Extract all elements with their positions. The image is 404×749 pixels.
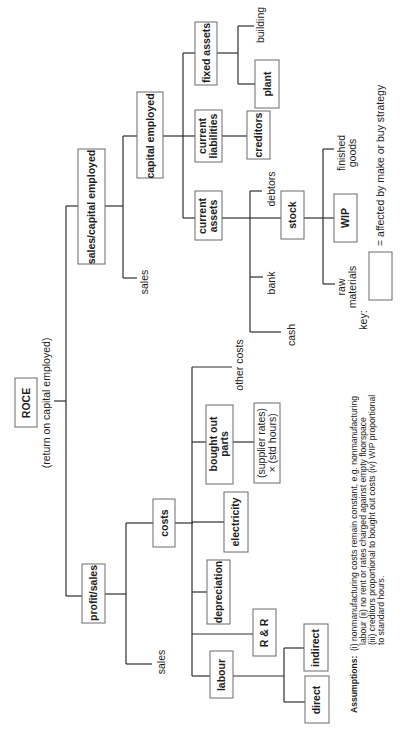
roce-tree-diagram: ROCE (return on capital employed) sales/…: [0, 0, 404, 749]
creditors-label: creditors: [252, 112, 264, 157]
bank-label: bank: [265, 271, 277, 295]
key-description: = affected by make or buy strategy: [374, 84, 386, 246]
capital-employed-label: capital employed: [144, 93, 156, 178]
electricity-label: electricity: [229, 497, 241, 546]
current-assets-label-2: assets: [207, 199, 219, 232]
costs-label: costs: [158, 509, 170, 537]
r-and-r-label: R & R: [258, 618, 270, 647]
building-label: building: [254, 7, 266, 43]
other-costs-label: other costs: [233, 339, 245, 390]
plant-label: plant: [261, 71, 273, 97]
profit-sales-label: profit/sales: [87, 565, 99, 621]
key-label: key:: [357, 310, 369, 329]
assumptions-title: Assumptions:: [349, 656, 359, 713]
sales-top-label: sales: [138, 270, 150, 295]
current-liabilities-label-2: liabilities: [207, 113, 219, 158]
supplier-rates-label-2: × (std hours): [266, 413, 278, 472]
wip-label: WIP: [339, 208, 351, 228]
raw-materials-label-2: materials: [346, 266, 358, 309]
fixed-assets-label: fixed assets: [200, 23, 212, 83]
key-swatch-box: [369, 252, 392, 300]
direct-label: direct: [310, 685, 322, 714]
sales-capital-employed-label: sales/capital employed: [85, 150, 97, 264]
assumptions-line-4: to standard hours.: [376, 576, 386, 645]
depreciation-label: depreciation: [212, 561, 224, 623]
cash-label: cash: [285, 324, 297, 346]
finished-goods-label-2: goods: [346, 139, 358, 168]
stock-label: stock: [286, 201, 298, 229]
indirect-label: indirect: [309, 629, 321, 667]
roce-label: ROCE: [20, 388, 32, 418]
roce-sublabel: (return on capital employed): [40, 338, 52, 469]
sales-bottom-label: sales: [155, 650, 167, 675]
bought-out-parts-label-2: parts: [218, 431, 230, 457]
debtors-label: debtors: [265, 171, 277, 206]
labour-label: labour: [215, 659, 227, 691]
